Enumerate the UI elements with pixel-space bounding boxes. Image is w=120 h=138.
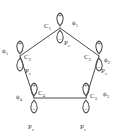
- phi-label-1: ϕ1: [72, 20, 78, 29]
- orbital-diagram-canvas: + − + − + − + − + − C1 ϕ1 Pz C2 ϕ5 Pz C2…: [0, 0, 120, 138]
- phi-index-4: 4: [20, 97, 22, 102]
- bond-c1-c2left: [20, 28, 60, 56]
- orbital-axis-pz-c2-right: z: [105, 71, 107, 76]
- phi-index-5: 5: [6, 51, 8, 56]
- orbital-label-pz-c1: Pz: [64, 40, 70, 49]
- atom-index-c1: 1: [49, 26, 51, 31]
- orbital-axis-pz-c1: z: [68, 43, 70, 48]
- atom-index-c2-left: 2: [29, 57, 31, 62]
- atom-label-c2-right: C2: [84, 54, 91, 63]
- orbital-label-pz-c2-right: Pz: [101, 68, 107, 77]
- atom-label-c1: C1: [44, 23, 51, 32]
- atom-label-c4: C4: [38, 90, 45, 99]
- atom-label-c3: C3: [90, 93, 97, 102]
- atom-index-c3: 3: [95, 96, 97, 101]
- phi-label-5: ϕ5: [2, 48, 8, 57]
- orbital-label-pz-c3: Pz: [80, 124, 86, 133]
- atom-index-c2-right: 2: [89, 57, 91, 62]
- phi-index-1: 1: [76, 23, 78, 28]
- phi-label-3: ϕ3: [103, 91, 109, 100]
- orbital-axis-pz-c2-left: z: [29, 71, 31, 76]
- orbital-label-pz-c2-left: Pz: [25, 68, 31, 77]
- phi-index-2: 2: [108, 60, 110, 65]
- orbital-axis-pz-c3: z: [84, 127, 86, 132]
- orbital-axis-pz-c4: z: [32, 127, 34, 132]
- phi-label-4: ϕ4: [16, 94, 22, 103]
- phi-label-2: ϕ2: [104, 57, 110, 66]
- phi-index-3: 3: [107, 94, 109, 99]
- orbital-label-pz-c4: Pz: [28, 124, 34, 133]
- atom-index-c4: 4: [43, 93, 45, 98]
- atom-label-c2-left: C2: [24, 54, 31, 63]
